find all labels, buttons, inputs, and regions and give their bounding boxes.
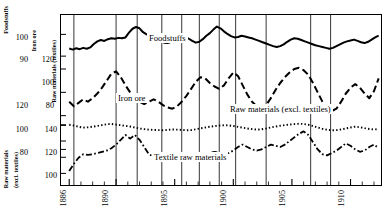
series-label-raw-excl-textiles: Raw materials (excl. textiles) [228,104,333,114]
ytick-iron-80: 80 [30,101,54,110]
ytick-rawexcl-100: 100 [4,125,28,134]
ytick-rawtex-140: 140 [33,125,57,134]
axis-title-raw-textiles: Raw materials (textiles) [50,40,57,103]
xtick-1910: 1910 [337,190,346,206]
ytick-rawtex-100: 100 [33,171,57,180]
axis-title-raw-excl-textiles-line2: (excl. textiles) [12,152,19,188]
y-tick-marks-group [61,34,66,173]
series-label-textile-raw: Textile raw materials [152,152,228,162]
xtick-1886: 1886 [59,190,68,206]
series-line-raw-materials-excl-textiles [69,124,378,131]
ytick-rawtex-120: 120 [33,148,57,157]
series-label-iron-ore: Iron ore [116,93,147,103]
ytick-foodstuffs-90: 90 [4,55,28,64]
x-tick-marks-group [69,179,374,185]
ytick-rawexcl-120: 120 [4,101,28,110]
axis-title-iron-ore: Iron ore [30,30,37,52]
chart-figure: Foodstuffs Iron ore Raw materials (texti… [0,0,388,224]
xtick-1895: 1895 [160,190,169,206]
xtick-1900: 1900 [219,190,228,206]
xtick-1890: 1890 [101,190,110,206]
xtick-1905: 1905 [278,190,287,206]
ytick-foodstuffs-100: 100 [4,33,28,42]
series-line-foodstuffs [69,27,378,50]
ytick-rawexcl-80: 80 [4,148,28,157]
axis-title-foodstuffs: Foodstuffs [2,6,9,34]
ytick-iron-100: 100 [30,78,54,87]
series-label-foodstuffs: Foodstuffs [147,33,188,43]
ytick-iron-120: 120 [30,55,54,64]
